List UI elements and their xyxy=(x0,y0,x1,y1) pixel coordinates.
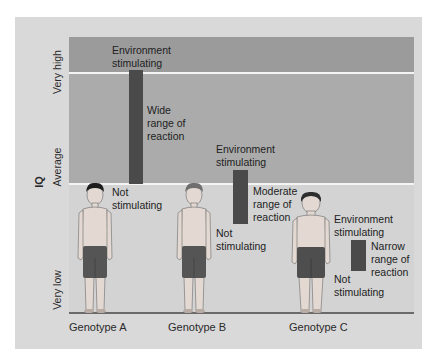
genotype-a-not-stimulating-label: Not stimulating xyxy=(112,186,162,212)
genotype-a-range-bar xyxy=(129,70,143,184)
genotype-c-stimulating-label: Environment stimulating xyxy=(334,213,393,239)
boy-figure-a-icon xyxy=(74,180,116,314)
genotype-a-label: Genotype A xyxy=(69,321,127,333)
genotype-a-range-label: Wide range of reaction xyxy=(147,104,186,143)
y-axis-title: IQ xyxy=(33,176,45,188)
genotype-c-label: Genotype C xyxy=(289,321,348,333)
very-high-line xyxy=(69,72,414,74)
genotype-b-label: Genotype B xyxy=(168,321,226,333)
genotype-c-range-bar xyxy=(351,240,366,271)
genotype-b-range-bar xyxy=(233,170,248,224)
genotype-b-not-stimulating-label: Not stimulating xyxy=(216,227,266,253)
genotype-c-not-stimulating-label: Not stimulating xyxy=(334,273,384,299)
x-axis-baseline xyxy=(69,312,414,314)
boy-figure-b-icon xyxy=(173,180,215,314)
y-label-very-low: Very low xyxy=(51,270,63,310)
y-label-very-high: Very high xyxy=(51,50,63,94)
genotype-b-range-label: Moderate range of reaction xyxy=(253,185,297,224)
genotype-a-stimulating-label: Environment stimulating xyxy=(112,44,171,70)
y-label-average: Average xyxy=(51,148,63,187)
genotype-b-stimulating-label: Environment stimulating xyxy=(216,143,275,169)
